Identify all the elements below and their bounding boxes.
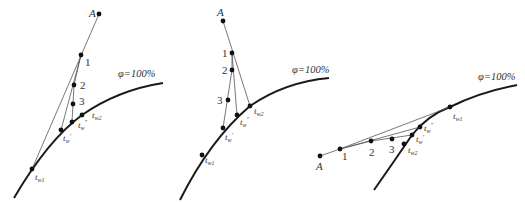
point-1 (79, 53, 84, 58)
curve-label: φ=100% (478, 71, 516, 82)
label-1: 1 (85, 56, 91, 68)
point-tw1 (30, 167, 35, 172)
saturation-curve (180, 78, 329, 200)
point-3 (226, 98, 231, 103)
psychrometric-diagram: A 1 2 3 φ=100% tw2 tw" tw' tw1 A 1 2 3 φ… (0, 0, 525, 202)
label-tw1: tw1 (35, 172, 45, 183)
point-a (97, 12, 102, 17)
label-tw-prime: tw' (225, 131, 234, 143)
line-1-tw1 (340, 107, 450, 149)
point-tw1 (200, 153, 205, 158)
point-2 (369, 139, 374, 144)
point-tw1 (448, 105, 453, 110)
label-1: 1 (342, 150, 348, 162)
label-2: 2 (222, 64, 228, 76)
curve-label: φ=100% (292, 64, 330, 75)
point-tw-dprime (235, 113, 240, 118)
label-a: A (216, 6, 224, 18)
panel-left: A 1 2 3 φ=100% tw2 tw" tw' tw1 (14, 7, 163, 198)
label-3: 3 (79, 95, 85, 107)
point-tw2 (248, 104, 253, 109)
label-tw-dprime: tw" (240, 116, 250, 128)
label-3: 3 (389, 143, 395, 155)
point-tw-dprime (418, 125, 423, 130)
panel-right: A 1 2 3 φ=100% tw1 tw" tw' tw2 (315, 71, 517, 190)
curve-label: φ=100% (118, 68, 156, 79)
label-tw1: tw1 (205, 155, 215, 166)
point-a (318, 154, 323, 159)
point-3 (71, 102, 76, 107)
line-1-2 (340, 141, 371, 149)
point-tw2 (80, 113, 85, 118)
point-2 (230, 68, 235, 73)
point-tw-prime (410, 133, 415, 138)
point-a (221, 19, 226, 24)
label-tw-dprime: tw" (78, 119, 88, 131)
label-3: 3 (217, 94, 223, 106)
label-tw1: tw1 (453, 111, 463, 122)
label-a: A (315, 160, 323, 172)
label-1: 1 (222, 47, 228, 59)
label-tw-prime: tw' (63, 132, 72, 144)
line-a-tw1 (32, 14, 99, 169)
label-tw-dprime: tw" (424, 122, 434, 134)
point-tw-dprime (70, 120, 75, 125)
point-2 (72, 83, 77, 88)
label-2: 2 (369, 146, 375, 158)
label-tw2: tw2 (92, 110, 102, 121)
panel-middle: A 1 2 3 φ=100% tw2 tw" tw' tw1 (180, 6, 330, 200)
label-tw-prime: tw' (416, 133, 425, 145)
point-1 (230, 51, 235, 56)
line-a-1 (320, 149, 340, 156)
label-tw2: tw2 (408, 145, 418, 156)
label-tw2: tw2 (254, 106, 264, 117)
label-a: A (88, 7, 96, 19)
point-tw-prime (59, 128, 64, 133)
point-tw2 (402, 142, 407, 147)
point-3 (390, 137, 395, 142)
label-2: 2 (80, 79, 86, 91)
point-tw-prime (221, 126, 226, 131)
